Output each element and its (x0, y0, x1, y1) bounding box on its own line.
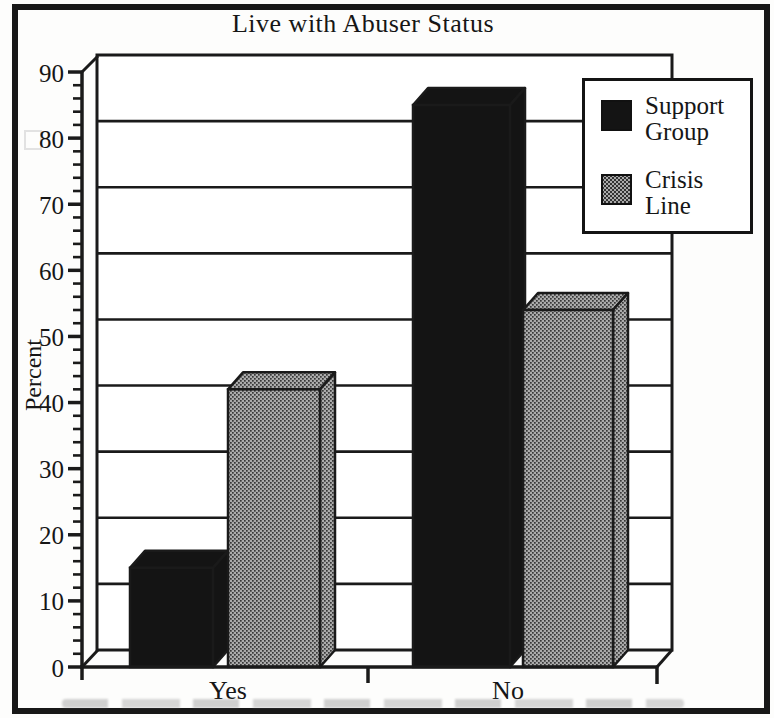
bar-yes-support-group (130, 568, 213, 667)
bar-no-crisis-line-side-face (613, 293, 628, 667)
bar-no-support-group-top-face (413, 88, 525, 105)
bar-yes-crisis-line (228, 389, 320, 667)
support-group-swatch (601, 100, 632, 131)
bar-yes-support-group-top-face (130, 551, 228, 568)
bar-no-crisis-line-top-face (523, 293, 628, 310)
y-tick-label-20: 20 (39, 522, 64, 549)
legend-item-crisis-line: Crisis Line (601, 167, 750, 219)
bar-yes-crisis-line-side-face (320, 372, 335, 667)
bar-yes-crisis-line-top-face (228, 372, 335, 389)
y-tick-label-80: 80 (39, 126, 64, 153)
scanned-chart-page: { "chart_data": { "type": "bar", "style"… (0, 0, 774, 718)
bar-no-crisis-line (523, 310, 613, 667)
bar-no-support-group (413, 105, 510, 667)
crisis-line-swatch (601, 174, 632, 205)
bottom-right-bevel (657, 650, 672, 667)
legend: Support Group Crisis Line (582, 78, 753, 234)
legend-label-support-group: Support Group (645, 93, 750, 145)
chart-title: Live with Abuser Status (232, 9, 494, 39)
y-tick-label-90: 90 (39, 60, 64, 87)
bar-yes-support-group-side-face (213, 551, 228, 667)
y-tick-label-60: 60 (39, 258, 64, 285)
legend-item-support-group: Support Group (601, 93, 750, 145)
bottom-left-bevel (82, 650, 98, 667)
y-tick-label-30: 30 (39, 456, 64, 483)
y-axis-title: Percent (20, 339, 47, 411)
y-tick-label-10: 10 (39, 588, 64, 615)
legend-label-crisis-line: Crisis Line (645, 167, 750, 219)
y-tick-label-70: 70 (39, 192, 64, 219)
scan-bleed-through-text (62, 699, 684, 708)
y-tick-label-0: 0 (52, 655, 65, 682)
